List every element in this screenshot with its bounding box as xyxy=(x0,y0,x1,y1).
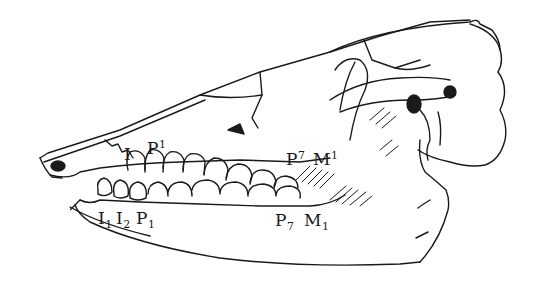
label-lower-molar-first: M1 xyxy=(304,212,329,229)
skull-line-drawing xyxy=(0,0,542,281)
label-lower-incisor-2: I2 xyxy=(116,210,131,227)
skull-illustration: I P1 P7 M1 I1 I2 P1 P7 M1 xyxy=(0,0,542,281)
label-lower-incisor-1: I1 xyxy=(98,210,113,227)
label-lower-premolar-first: P1 xyxy=(136,210,155,227)
label-upper-molar-first: M1 xyxy=(313,151,338,168)
label-upper-incisor: I xyxy=(124,146,131,163)
label-upper-premolar-first: P1 xyxy=(147,140,166,157)
label-lower-premolar-last: P7 xyxy=(275,212,294,229)
label-upper-premolar-last: P7 xyxy=(286,151,305,168)
